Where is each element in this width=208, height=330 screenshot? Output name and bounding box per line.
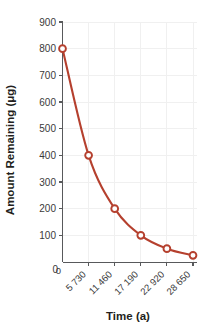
y-tick-label: 400 [39,150,56,161]
chart-canvas: 0100200300400500600700800900 05 73011 46… [0,0,208,330]
y-tick-label: 300 [39,177,56,188]
y-tick-label: 600 [39,97,56,108]
data-point-marker [164,245,171,252]
data-point-marker [111,205,118,212]
y-tick-label: 800 [39,43,56,54]
data-point-marker [137,232,144,239]
y-axis-title: Amount Remaining (μg) [4,85,16,216]
x-axis-title: Time (a) [106,310,150,322]
data-point-marker [59,45,66,52]
y-tick-label: 200 [39,203,56,214]
y-tick-label: 500 [39,123,56,134]
x-tick-label: 0 [56,265,61,276]
y-tick-label: 900 [39,17,56,28]
decay-chart: 0100200300400500600700800900 05 73011 46… [0,0,208,330]
data-point-marker [190,252,197,259]
data-point-marker [85,152,92,159]
y-tick-label: 700 [39,70,56,81]
y-tick-label: 100 [39,230,56,241]
